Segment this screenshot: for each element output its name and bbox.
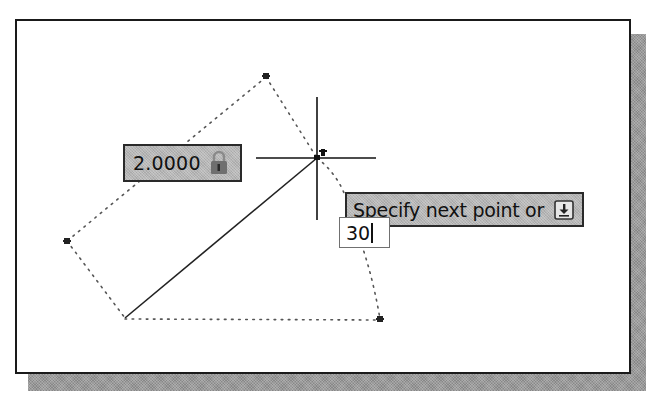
dimension-input-tooltip[interactable]: 2.0000 bbox=[123, 144, 242, 182]
vertex-marker-left[interactable] bbox=[63, 238, 71, 244]
down-arrow-options-icon[interactable] bbox=[554, 200, 574, 220]
vertex-marker-bottom-right[interactable] bbox=[376, 316, 384, 322]
vertex-markers bbox=[63, 73, 384, 322]
text-caret bbox=[371, 223, 373, 243]
angle-input-field[interactable]: 30 bbox=[339, 217, 390, 248]
angle-input-value[interactable]: 30 bbox=[346, 222, 370, 244]
dotted-construction-lines bbox=[67, 77, 380, 320]
dotted-edge-bottom bbox=[125, 319, 380, 320]
lock-icon[interactable] bbox=[208, 150, 230, 176]
line-segment bbox=[125, 158, 317, 318]
vertex-marker-top[interactable] bbox=[262, 73, 270, 79]
dotted-edge-left-bottom bbox=[67, 241, 125, 318]
dimension-value[interactable]: 2.0000 bbox=[133, 152, 208, 174]
dotted-edge-top-right bbox=[266, 77, 317, 158]
